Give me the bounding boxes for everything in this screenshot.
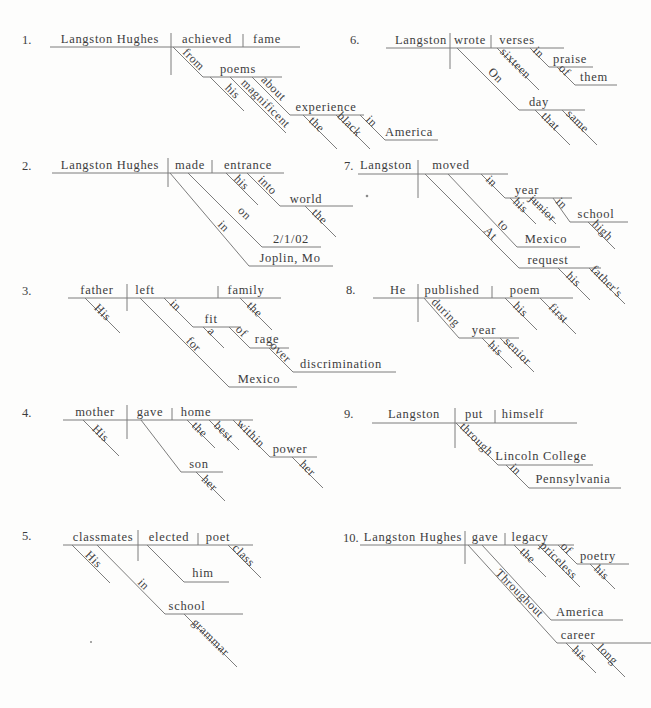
slant-word: of xyxy=(233,322,251,340)
slant-word: the xyxy=(244,298,266,320)
diagram-line xyxy=(141,420,181,472)
slant-word: same xyxy=(563,107,592,136)
slant-word: his xyxy=(510,299,531,320)
slant-word: in xyxy=(363,112,380,129)
diagram-number: 7. xyxy=(344,159,353,173)
diagram-word: poem xyxy=(510,283,541,297)
slant-word: the xyxy=(189,418,211,440)
slant-word: on xyxy=(235,204,254,223)
diagram-word: power xyxy=(273,442,308,456)
diagram-word: fame xyxy=(253,32,281,46)
diagram-word: him xyxy=(192,566,214,580)
sentence-diagram-4: 4.mothergavehomepowersonHisthebestwithin… xyxy=(22,405,323,501)
diagram-word: family xyxy=(228,283,265,297)
slant-word: first xyxy=(546,300,572,326)
slant-word: Throughout xyxy=(493,566,547,620)
slant-word: that xyxy=(539,109,563,133)
diagram-number: 10. xyxy=(343,531,359,545)
diagram-word: home xyxy=(181,405,212,419)
diagram-number: 1. xyxy=(22,33,31,47)
sentence-diagram-9: 9.LangstonputhimselfLincoln CollegePenns… xyxy=(344,407,621,488)
diagram-word: year xyxy=(472,323,496,337)
diagram-word: America xyxy=(385,125,433,139)
slant-word: His xyxy=(82,548,105,571)
sentence-diagram-5: 5.classmateselectedpoethimschoolHisincla… xyxy=(22,529,261,667)
slant-word: within xyxy=(234,416,268,450)
diagram-number: 5. xyxy=(22,529,31,543)
diagram-number: 2. xyxy=(22,159,31,173)
slant-word: his xyxy=(563,269,584,290)
diagram-word: 2/1/02 xyxy=(273,232,309,246)
slant-word: long xyxy=(594,641,621,668)
document-page: 1.Langston Hughesachievedfamepoemsexperi… xyxy=(0,0,651,708)
slant-word: for xyxy=(183,334,204,355)
diagram-word: praise xyxy=(553,52,587,66)
diagram-word: America xyxy=(556,605,604,619)
slant-word: into xyxy=(255,173,280,198)
diagram-word: Langston xyxy=(395,33,447,47)
slant-word: in xyxy=(507,460,524,477)
diagram-word: left xyxy=(135,283,154,297)
diagram-word: Mexico xyxy=(525,232,567,246)
diagram-word: Langston Hughes xyxy=(61,32,159,46)
slant-word: her xyxy=(199,472,221,494)
slant-word: the xyxy=(517,544,539,566)
scan-speck xyxy=(90,641,92,643)
diagram-word: Langston xyxy=(388,407,440,421)
diagram-word: poet xyxy=(206,530,230,544)
diagram-word: verses xyxy=(499,33,534,47)
diagram-line xyxy=(147,545,184,582)
slant-word: in xyxy=(135,575,152,592)
diagram-word: mother xyxy=(75,405,115,419)
slant-word: in xyxy=(167,296,184,313)
diagram-word: request xyxy=(528,253,569,267)
sentence-diagram-2: 2.Langston Hughesmadeentranceworld2/1/02… xyxy=(22,158,353,266)
diagram-word: Langston Hughes xyxy=(61,158,159,172)
slant-word: father's xyxy=(588,262,626,300)
diagram-word: published xyxy=(425,283,480,297)
slant-word: during xyxy=(429,295,464,330)
diagram-word: classmates xyxy=(73,530,133,544)
diagram-word: Mexico xyxy=(238,372,280,386)
slant-word: the xyxy=(309,205,331,227)
diagram-word: school xyxy=(169,599,206,613)
diagram-word: himself xyxy=(502,407,545,421)
diagram-number: 8. xyxy=(346,283,355,297)
diagram-word: wrote xyxy=(454,33,486,47)
diagram-word: Pennsylvania xyxy=(535,472,610,486)
diagram-word: poetry xyxy=(580,549,616,563)
diagram-number: 6. xyxy=(350,33,359,47)
diagram-word: gave xyxy=(472,530,498,544)
slant-word: in xyxy=(553,194,570,211)
diagram-word: day xyxy=(529,95,549,109)
diagram-word: poems xyxy=(220,62,256,76)
slant-word: junior xyxy=(526,191,559,224)
diagram-word: world xyxy=(290,192,323,206)
diagram-word: Langston Hughes xyxy=(364,530,462,544)
slant-word: On xyxy=(485,65,506,86)
diagram-word: moved xyxy=(432,158,470,172)
slant-word: grammar xyxy=(189,615,232,658)
slant-word: His xyxy=(89,422,112,445)
diagram-word: son xyxy=(189,457,209,471)
sentence-diagram-3: 3.fatherleftfamilyfitragediscriminationM… xyxy=(22,283,396,387)
slant-word: his xyxy=(569,643,590,664)
slant-word: in xyxy=(483,172,500,189)
diagram-word: made xyxy=(175,158,205,172)
diagram-word: Langston xyxy=(360,158,412,172)
diagram-word: Joplin, Mo xyxy=(259,251,320,265)
diagram-word: discrimination xyxy=(300,357,382,371)
sentence-diagram-10: 10.Langston HughesgavelegacypoetryAmeric… xyxy=(343,530,651,677)
slant-word: class xyxy=(230,541,259,570)
sentence-diagram-worksheet: 1.Langston Hughesachievedfamepoemsexperi… xyxy=(0,0,651,708)
slant-word: from xyxy=(180,45,208,73)
diagram-word: gave xyxy=(137,405,163,419)
slant-word: in xyxy=(215,217,232,234)
diagram-word: Lincoln College xyxy=(495,449,586,463)
diagram-word: them xyxy=(580,70,608,84)
slant-word: His xyxy=(91,301,114,324)
diagram-number: 4. xyxy=(22,406,31,420)
diagram-word: elected xyxy=(149,530,189,544)
diagram-line xyxy=(448,174,517,247)
diagram-number: 9. xyxy=(344,407,353,421)
